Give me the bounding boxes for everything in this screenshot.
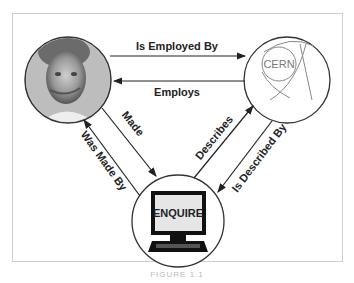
relationship-diagram: CERN ENQUIRE Is Employed By Employs Made… xyxy=(0,0,354,283)
cern-node: CERN xyxy=(244,37,330,123)
figure-caption: FIGURE 1.1 xyxy=(0,270,354,279)
edge-label-is-employed-by: Is Employed By xyxy=(136,40,219,52)
edge-is-employed-by: Is Employed By xyxy=(110,40,245,56)
edge-employs: Employs xyxy=(114,81,245,98)
enquire-label: ENQUIRE xyxy=(153,207,203,219)
edge-label-employs: Employs xyxy=(154,86,200,98)
edge-label-made: Made xyxy=(120,109,147,138)
edge-was-made-by: Was Made By xyxy=(79,120,140,196)
cern-label: CERN xyxy=(263,58,294,70)
computer-icon xyxy=(148,191,208,252)
edge-label-is-described-by: Is Described By xyxy=(229,120,289,194)
edge-is-described-by: Is Described By xyxy=(218,120,289,194)
edge-label-was-made-by: Was Made By xyxy=(79,129,131,194)
enquire-node: ENQUIRE xyxy=(132,175,224,267)
person-node xyxy=(25,36,111,123)
